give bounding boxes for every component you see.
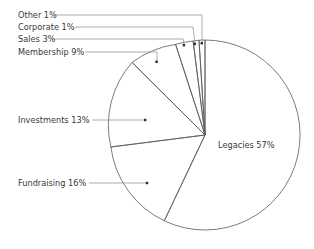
pie-slice-fundraising[interactable] (111, 135, 205, 221)
pie-slice-corporate[interactable] (193, 40, 205, 135)
pie-label-corporate: Corporate 1% (18, 22, 75, 32)
pie-label-investments: Investments 13% (18, 115, 90, 125)
pie-labels: Other 1% Corporate 1% Sales 3% Membershi… (18, 10, 275, 188)
leader-dot-other (201, 42, 203, 44)
pie-slice-investments[interactable] (108, 62, 205, 147)
pie-slice-legacies[interactable] (164, 40, 300, 230)
leader-lines (52, 15, 203, 184)
leader-dot-investments (144, 119, 146, 121)
pie-slice-membership[interactable] (132, 44, 205, 135)
pie-slices (108, 40, 300, 230)
pie-label-sales: Sales 3% (18, 34, 56, 44)
leader-dot-fundraising (146, 182, 148, 184)
pie-label-legacies: Legacies 57% (218, 140, 275, 150)
pie-label-membership: Membership 9% (18, 47, 84, 57)
pie-slice-other[interactable] (199, 40, 205, 135)
pie-chart-canvas: Other 1% Corporate 1% Sales 3% Membershi… (0, 0, 314, 249)
pie-label-fundraising: Fundraising 16% (18, 178, 86, 188)
pie-chart: Other 1% Corporate 1% Sales 3% Membershi… (0, 0, 314, 249)
leader-dot-sales (183, 44, 185, 46)
pie-label-other: Other 1% (18, 10, 57, 20)
leader-dot-membership (155, 61, 157, 63)
leader-line-corporate (75, 27, 195, 43)
leader-line-other (54, 15, 202, 42)
leader-line-sales (52, 39, 184, 44)
leader-dot-corporate (194, 43, 196, 45)
